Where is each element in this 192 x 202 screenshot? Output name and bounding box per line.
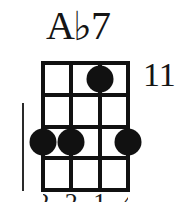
fingering-number-string-3: 1 (87, 190, 113, 202)
fret-line-3 (41, 156, 130, 160)
chord-quality-label: 7 (91, 3, 111, 48)
fret-line-0 (41, 61, 130, 65)
fingering-numbers-row: 2214 (43, 190, 128, 202)
fingering-number-string-2: 2 (58, 190, 84, 202)
dot-string-3-fret-1 (86, 65, 113, 92)
fret-line-1 (41, 93, 130, 97)
dot-string-2-fret-3 (58, 129, 85, 156)
dot-string-4-fret-3 (115, 129, 142, 156)
margin-rule-line (22, 103, 24, 191)
fingering-number-string-4: 4 (115, 190, 128, 202)
fretboard-grid (43, 63, 128, 190)
string-line-1 (41, 61, 45, 192)
chord-accidental-flat-icon: ♭ (73, 4, 92, 49)
chord-root-label: A (46, 3, 75, 48)
chord-diagram-card: A♭7 11 2214 (0, 0, 192, 202)
chord-name-title: A♭7 (0, 4, 160, 48)
dot-string-1-fret-3 (30, 129, 57, 156)
fingering-number-string-1: 2 (43, 190, 56, 202)
fret-position-number: 11 (143, 57, 176, 93)
fret-line-2 (41, 125, 130, 129)
string-line-4 (126, 61, 130, 192)
string-line-2 (69, 61, 73, 192)
